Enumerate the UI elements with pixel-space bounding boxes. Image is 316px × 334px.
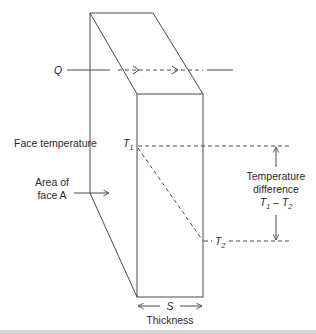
thickness-label: Thickness [146,314,193,326]
bottom-band [0,330,316,334]
temp-diff-line2: difference [253,183,299,195]
heat-flow-line [67,66,233,74]
t1-label: T1 [123,137,133,151]
slab-diagram: Q Face temperature T1 T2 Temperature dif… [0,0,316,334]
front-face [137,94,203,297]
temperature-gradient-line [138,148,203,241]
bottom-left-slant [90,193,137,297]
heat-flow-label: Q [54,64,62,76]
t2-label: T2 [215,235,225,249]
area-label-line1: Area of [35,176,69,188]
temp-diff-line1: Temperature [247,170,306,182]
face-temperature-label: Face temperature [14,137,97,149]
top-right-slant [153,13,203,94]
slab-outline [90,13,203,297]
top-left-slant [90,13,137,94]
temp-diff-formula: T1–T2 [260,196,293,210]
area-label-line2: face A [37,189,66,201]
thickness-symbol: S [166,300,173,312]
